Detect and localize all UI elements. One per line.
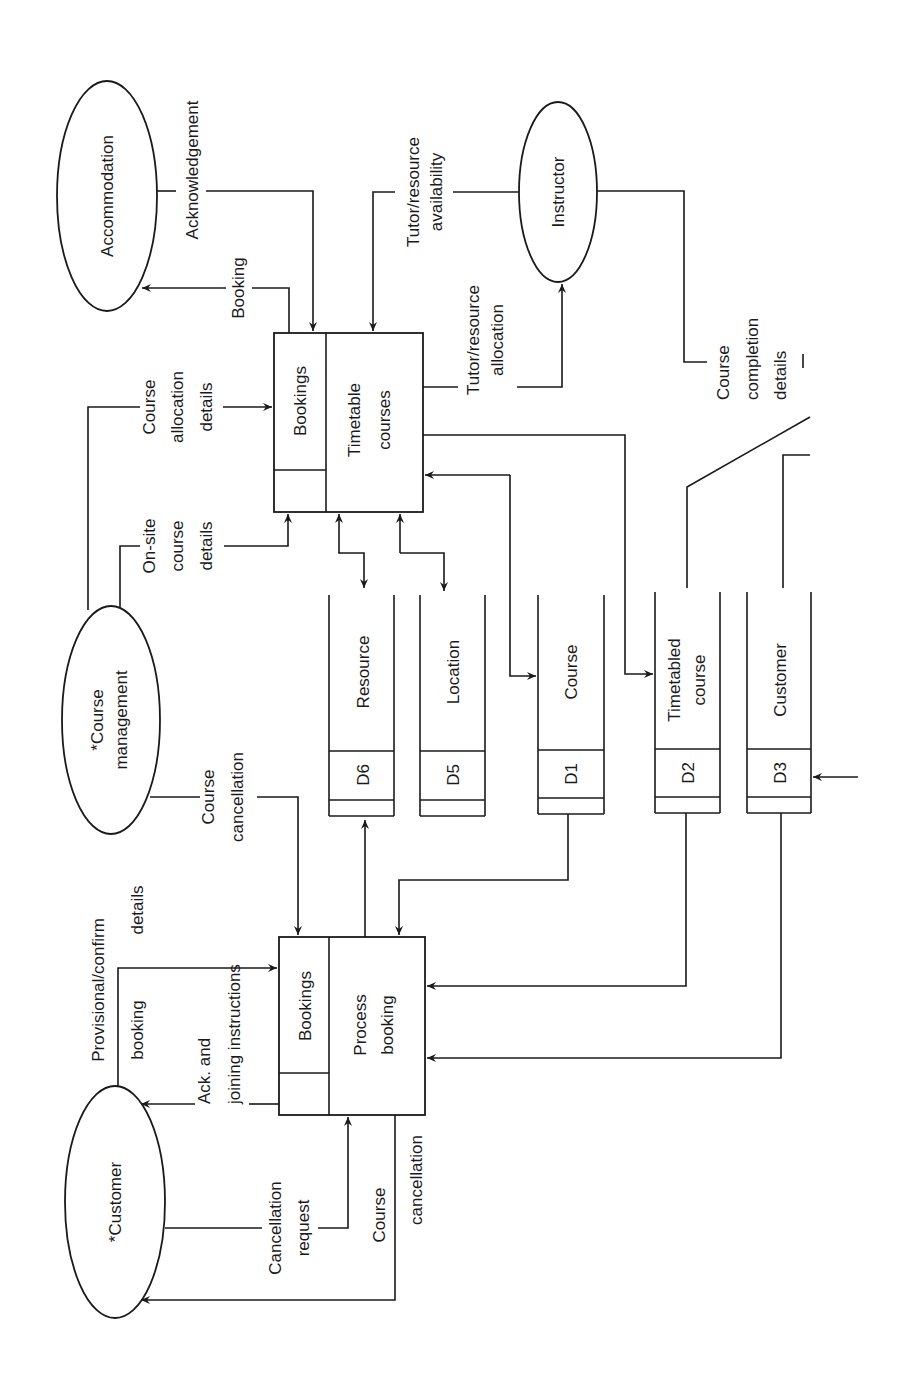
entity-label-line2: management [112,670,131,770]
flow-course-allocation-details: Course allocation details [88,371,272,610]
flow-course-completion-details: Course completion details [597,191,803,400]
flow-label-line1: On-site [140,519,159,574]
entity-instructor: Instructor [519,102,597,282]
flow-label-line2: course [168,520,187,571]
flow-label-line1: Course [370,1188,389,1243]
flow-label-line1: Ack. and [195,1038,214,1104]
flow-label-line2: request [294,1199,313,1256]
flow-timetable-location [400,514,444,591]
flow-label-line1: Course [140,380,159,435]
flow-provisional-confirm-booking-details: Provisional/confirm booking details [89,885,277,1087]
flow-label-line3: details [128,885,147,934]
flow-label-line1: Provisional/confirm [89,918,108,1062]
datastore-ref: D5 [444,764,463,786]
entity-label: Instructor [549,156,568,227]
flow-onsite-course-details: On-site course details [120,514,288,607]
entity-customer: *Customer [65,1086,165,1318]
flow-label-line2: allocation [488,304,507,376]
datastore-d2-timetabled-course: D2 Timetabled course [655,592,720,813]
flow-timetable-resource [339,514,364,588]
datastore-ref: D3 [771,762,790,784]
process-name-line2: booking [378,995,397,1055]
flow-cm-course-cancellation: Course cancellation [150,752,298,935]
process-process-booking: Bookings Process booking [279,937,425,1115]
entity-label-line1: *Course [88,689,107,750]
datastore-ref: D1 [562,763,581,785]
flow-timetabled-processbooking [427,813,686,986]
flow-label-line2: cancellation [228,752,247,842]
flow-label-line3: details [771,351,790,400]
datastore-name: Customer [771,643,790,717]
process-name-line2: courses [375,390,394,450]
process-timetable-courses: Bookings Timetable courses [274,333,423,512]
flow-label-line2: completion [743,318,762,400]
datastore-ref: D2 [679,762,698,784]
flow-label-line2: allocation [168,371,187,443]
flow-label-line2: availability [427,152,446,231]
flow-ack-joining-instructions: Ack. and joining instructions [141,964,279,1105]
process-location: Bookings [296,971,315,1041]
datastore-name: Course [562,645,581,700]
flow-label-line1: Tutor/resource [464,285,483,395]
process-name-line1: Timetable [345,383,364,457]
datastore-d3-customer: D3 Customer [747,592,811,813]
entity-label: Accommodation [98,135,117,257]
flow-label-line1: Tutor/resource [404,137,423,247]
data-flow-diagram: Accommodation Instructor *Course managem… [0,0,906,1391]
flow-label-line1: Course [199,770,218,825]
flow-label: Booking [229,257,248,318]
datastore-name-line2: course [690,654,709,705]
flow-label-line1: Cancellation [266,1181,285,1275]
datastore-d6-resource: D6 Resource [329,595,394,816]
flow-booking: Booking [142,257,289,333]
flow-label-line1: Course [714,345,733,400]
entity-course-management: *Course management [62,606,160,834]
flow-customer-store-processbooking [427,813,781,1058]
datastore-name-line1: Timetabled [665,638,684,721]
flow-course-processbooking [399,814,568,935]
datastore-d1-course: D1 Course [538,595,604,814]
datastore-ref: D6 [354,764,373,786]
datastore-name: Resource [354,636,373,709]
flow-tutor-resource-availability: Tutor/resource availability [373,137,519,331]
flow-label: Acknowledgement [183,100,202,239]
flow-cancellation-request: Cancellation request [165,1117,348,1275]
flow-label-line2: joining instructions [225,964,244,1105]
flow-course-timetable [425,475,536,676]
flow-label-line2: booking [128,1000,147,1060]
entity-accommodation: Accommodation [57,81,157,311]
offpage-connectors [687,417,810,588]
flow-label-line3: details [197,382,216,431]
datastore-name: Location [444,640,463,704]
entity-label: *Customer [106,1162,125,1243]
flow-label-line2: cancellation [407,1135,426,1225]
process-location: Bookings [291,366,310,436]
process-name-line1: Process [351,994,370,1055]
flow-label-line3: details [197,521,216,570]
flow-tutor-resource-allocation: Tutor/resource allocation [423,284,562,395]
datastore-d5-location: D5 Location [420,595,485,816]
